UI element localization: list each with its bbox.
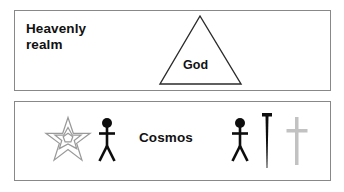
cross-icon	[285, 116, 309, 166]
cosmos-label: Cosmos	[139, 130, 193, 146]
heavenly-realm-label: Heavenly realm	[26, 21, 86, 53]
stick-figure-left-icon	[97, 117, 117, 163]
seven-pointed-star-icon	[44, 116, 92, 164]
god-label: God	[183, 58, 208, 72]
triangle-icon	[158, 14, 244, 88]
stick-figure-right-icon	[230, 117, 250, 163]
nail-icon	[260, 112, 274, 170]
cosmology-diagram: Heavenly realm God	[0, 0, 344, 192]
